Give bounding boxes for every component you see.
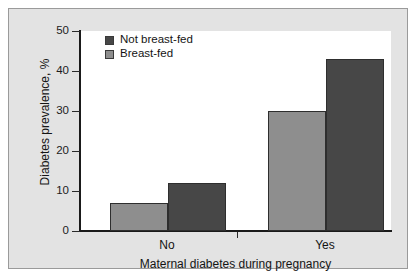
y-tick-10	[72, 191, 80, 192]
x-category-label-yes: Yes	[285, 238, 365, 252]
bar-no-not-breast-fed	[168, 183, 226, 231]
bar-no-breast-fed	[110, 203, 168, 231]
y-tick-label-0: 0	[43, 225, 69, 237]
y-tick-20	[72, 151, 80, 152]
bar-yes-not-breast-fed	[326, 59, 384, 231]
figure-root: 50 40 30 20 10 0 Not brea	[0, 0, 418, 279]
y-tick-40	[72, 71, 80, 72]
x-tick-divider	[237, 232, 238, 238]
x-axis-title: Maternal diabetes during pregnancy	[80, 257, 391, 271]
y-tick-50	[72, 31, 80, 32]
legend-swatch-icon-not-breast-fed	[105, 36, 114, 45]
legend-item-not-breast-fed: Not breast-fed	[105, 34, 193, 46]
legend-label-not-breast-fed: Not breast-fed	[120, 34, 193, 46]
x-category-label-no: No	[127, 238, 207, 252]
chart-legend: Not breast-fed Breast-fed	[105, 34, 193, 62]
y-tick-30	[72, 111, 80, 112]
legend-swatch-icon-breast-fed	[105, 50, 114, 59]
bar-yes-breast-fed	[268, 111, 326, 231]
legend-label-breast-fed: Breast-fed	[120, 48, 173, 60]
y-axis-title: Diabetes prevalence, %	[38, 22, 52, 222]
legend-item-breast-fed: Breast-fed	[105, 48, 193, 60]
y-tick-0	[72, 231, 80, 232]
chart-panel: 50 40 30 20 10 0 Not brea	[8, 8, 408, 269]
